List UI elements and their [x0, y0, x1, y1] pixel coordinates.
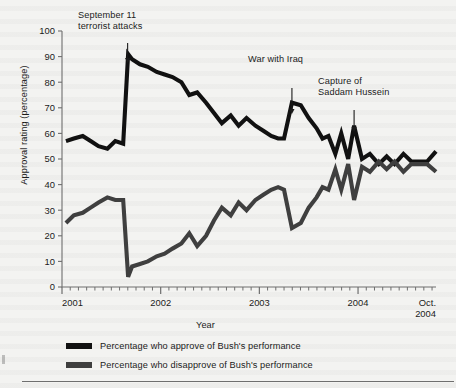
- x-tick-label: 2003: [249, 297, 270, 308]
- page-horizontal-rule: [22, 381, 454, 382]
- y-tick-label: 90: [45, 51, 55, 62]
- x-tick-label-end: Oct.: [419, 297, 436, 308]
- annotation-war-with-iraq-line1: War with Iraq: [248, 54, 303, 65]
- axis-spine: [62, 31, 436, 287]
- y-tick-label: 70: [45, 102, 55, 113]
- x-tick-label-end: 2004: [415, 308, 436, 319]
- x-tick-label: 2001: [62, 297, 83, 308]
- y-tick-label: 60: [45, 128, 55, 139]
- y-tick-label: 10: [45, 256, 55, 267]
- legend-label-approve: Percentage who approve of Bush's perform…: [100, 341, 301, 351]
- y-tick-label: 50: [45, 153, 55, 164]
- legend-item-approve: Percentage who approve of Bush's perform…: [66, 338, 313, 354]
- annotation-capture-of-saddam-hussein: Capture of Saddam Hussein: [318, 76, 389, 98]
- legend-label-disapprove: Percentage who disapprove of Bush's perf…: [100, 360, 313, 370]
- annotation-september-11: September 11 terrorist attacks: [78, 10, 143, 32]
- approval-rating-chart: 01020304050607080901002001200220032004Oc…: [0, 0, 456, 388]
- series-line-disapprove: [66, 162, 436, 277]
- series-line-approve: [66, 54, 436, 164]
- legend-item-disapprove: Percentage who disapprove of Bush's perf…: [66, 357, 313, 373]
- annotation-september-11-line1: September 11: [78, 10, 143, 21]
- legend-swatch-disapprove: [66, 362, 92, 368]
- y-tick-label: 100: [39, 25, 55, 36]
- y-axis-title: Approval rating (percentage): [19, 45, 29, 205]
- legend-swatch-approve: [66, 343, 92, 349]
- annotation-saddam-line1: Capture of: [318, 76, 389, 87]
- annotation-saddam-line2: Saddam Hussein: [318, 87, 389, 98]
- y-tick-label: 80: [45, 77, 55, 88]
- x-tick-label: 2002: [150, 297, 171, 308]
- x-tick-label: 2004: [348, 297, 369, 308]
- y-tick-label: 0: [50, 281, 55, 292]
- y-tick-label: 20: [45, 230, 55, 241]
- chart-legend: Percentage who approve of Bush's perform…: [66, 338, 313, 376]
- y-tick-label: 30: [45, 205, 55, 216]
- chart-plot-area: 01020304050607080901002001200220032004Oc…: [0, 0, 456, 330]
- page-edge-mark: [2, 355, 5, 364]
- y-tick-label: 40: [45, 179, 55, 190]
- x-axis-title: Year: [196, 320, 215, 330]
- annotation-september-11-line2: terrorist attacks: [78, 21, 143, 32]
- annotation-war-with-iraq: War with Iraq: [248, 54, 303, 65]
